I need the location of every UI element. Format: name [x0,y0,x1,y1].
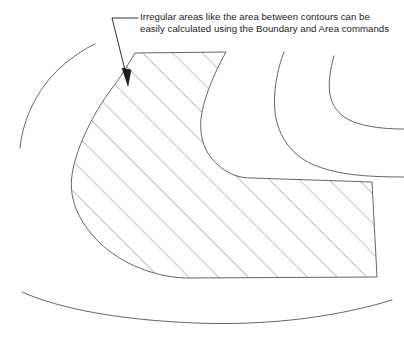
annotation-text: Irregular areas like the area between co… [140,11,402,36]
annotation-line-1: Irregular areas like the area between co… [140,11,402,23]
contour-top-right-inner [329,56,404,129]
contour-bottom [22,292,392,324]
hatched-region [0,0,404,343]
contour-top-right-outer [274,52,404,177]
hatch-pattern [0,0,404,343]
contour-diagram-svg [0,0,404,343]
annotation-line-2: easily calculated using the Boundary and… [140,23,402,35]
contour-left [20,44,95,148]
diagram-canvas: Irregular areas like the area between co… [0,0,404,343]
